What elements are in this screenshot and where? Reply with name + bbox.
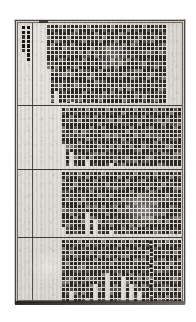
glyph bbox=[98, 115, 101, 118]
glyph bbox=[70, 258, 73, 261]
glyph bbox=[98, 123, 101, 126]
glyph bbox=[94, 281, 97, 284]
glyph bbox=[147, 55, 150, 58]
glyph bbox=[150, 198, 153, 201]
glyph bbox=[119, 55, 122, 58]
glyph bbox=[106, 112, 109, 115]
glyph bbox=[90, 141, 93, 144]
text-column bbox=[62, 24, 66, 103]
glyph bbox=[82, 281, 85, 284]
glyph bbox=[70, 198, 73, 201]
glyph bbox=[90, 130, 93, 133]
glyph bbox=[63, 80, 66, 83]
glyph bbox=[75, 95, 78, 98]
glyph bbox=[83, 95, 86, 98]
glyph bbox=[62, 123, 65, 126]
glyph bbox=[135, 99, 138, 102]
glyph bbox=[70, 202, 73, 205]
glyph bbox=[66, 266, 69, 269]
glyph bbox=[158, 138, 161, 141]
glyph bbox=[134, 112, 137, 115]
glyph bbox=[178, 220, 181, 223]
glyph bbox=[134, 163, 137, 166]
glyph bbox=[163, 69, 166, 72]
glyph bbox=[158, 258, 161, 261]
glyph bbox=[94, 183, 97, 186]
glyph bbox=[119, 66, 122, 69]
glyph bbox=[111, 73, 114, 76]
glyph bbox=[150, 220, 153, 223]
glyph bbox=[142, 112, 145, 115]
glyph bbox=[163, 47, 166, 50]
glyph bbox=[134, 108, 137, 111]
glyph bbox=[78, 160, 81, 163]
glyph bbox=[71, 40, 74, 43]
glyph bbox=[143, 84, 146, 87]
text-column bbox=[177, 107, 181, 167]
glyph bbox=[158, 130, 161, 133]
glyph bbox=[90, 183, 93, 186]
glyph bbox=[126, 138, 129, 141]
glyph bbox=[138, 262, 141, 265]
text-column bbox=[77, 107, 81, 167]
glyph bbox=[91, 69, 94, 72]
glyph bbox=[74, 213, 77, 216]
glyph bbox=[95, 73, 98, 76]
glyph bbox=[154, 152, 157, 155]
glyph bbox=[150, 134, 153, 137]
glyph bbox=[78, 247, 81, 250]
glyph bbox=[71, 77, 74, 80]
text-column bbox=[85, 171, 89, 213]
glyph bbox=[98, 288, 101, 291]
glyph bbox=[67, 32, 70, 35]
glyph bbox=[66, 284, 69, 287]
glyph bbox=[106, 213, 109, 216]
glyph bbox=[119, 99, 122, 102]
glyph bbox=[174, 251, 177, 254]
glyph bbox=[75, 29, 78, 32]
glyph bbox=[74, 262, 77, 265]
glyph bbox=[51, 102, 54, 103]
glyph bbox=[146, 134, 149, 137]
glyph bbox=[122, 266, 125, 269]
glyph bbox=[94, 179, 97, 182]
glyph bbox=[126, 108, 129, 111]
glyph bbox=[130, 149, 133, 152]
scanned-page-image bbox=[0, 0, 196, 322]
glyph bbox=[142, 277, 145, 280]
glyph bbox=[151, 102, 154, 103]
glyph bbox=[138, 141, 141, 144]
glyph bbox=[162, 119, 165, 122]
glyph bbox=[138, 134, 141, 137]
text-column bbox=[169, 171, 173, 235]
glyph bbox=[139, 88, 142, 91]
glyph bbox=[166, 273, 169, 276]
glyph bbox=[66, 141, 69, 144]
glyph bbox=[138, 138, 141, 141]
glyph bbox=[47, 47, 50, 50]
glyph bbox=[178, 270, 181, 273]
glyph bbox=[154, 145, 157, 148]
glyph bbox=[82, 183, 85, 186]
glyph bbox=[70, 112, 73, 115]
glyph bbox=[162, 156, 165, 159]
glyph bbox=[107, 99, 110, 102]
glyph bbox=[66, 119, 69, 122]
glyph bbox=[71, 99, 74, 102]
glyph bbox=[166, 262, 169, 265]
glyph bbox=[123, 58, 126, 61]
glyph bbox=[118, 231, 121, 234]
glyph bbox=[142, 299, 145, 302]
glyph bbox=[94, 198, 97, 201]
glyph bbox=[115, 88, 118, 91]
glyph bbox=[118, 258, 121, 261]
glyph bbox=[115, 77, 118, 80]
glyph bbox=[98, 179, 101, 182]
glyph bbox=[94, 202, 97, 205]
glyph bbox=[106, 247, 109, 250]
glyph bbox=[170, 115, 173, 118]
glyph bbox=[74, 292, 77, 295]
glyph bbox=[142, 160, 145, 163]
glyph bbox=[166, 284, 169, 287]
glyph bbox=[146, 163, 149, 166]
